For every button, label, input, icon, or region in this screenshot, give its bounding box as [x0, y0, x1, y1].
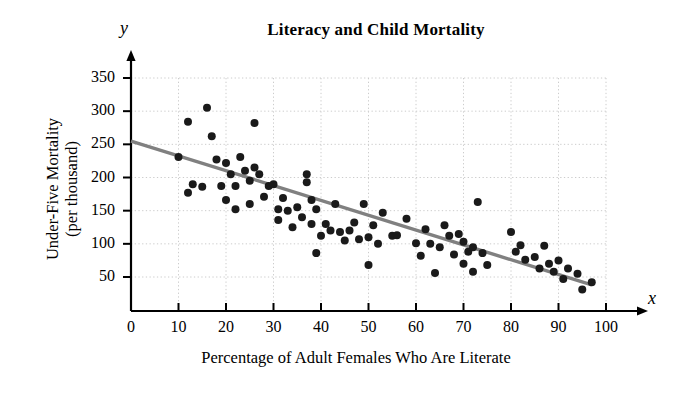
data-point: [474, 198, 482, 206]
data-point: [298, 213, 306, 221]
data-point: [222, 159, 230, 167]
data-point: [483, 261, 491, 269]
data-point: [393, 231, 401, 239]
data-point: [303, 178, 311, 186]
data-point: [379, 209, 387, 217]
data-point: [350, 219, 358, 227]
data-point: [198, 183, 206, 191]
axis-ticks: [123, 78, 606, 311]
data-point: [545, 260, 553, 268]
data-point: [293, 203, 301, 211]
data-point: [217, 182, 225, 190]
data-point: [374, 240, 382, 248]
data-point: [289, 223, 297, 231]
data-point: [213, 156, 221, 164]
data-point: [431, 269, 439, 277]
data-point: [260, 193, 268, 201]
chart-figure: Literacy and Child Mortality y x Under-F…: [0, 0, 696, 393]
data-point: [517, 241, 525, 249]
data-point: [184, 118, 192, 126]
regression-line: [131, 141, 592, 285]
data-point: [365, 261, 373, 269]
data-point: [555, 256, 563, 264]
data-point: [232, 182, 240, 190]
data-point: [521, 256, 529, 264]
data-point: [479, 249, 487, 257]
data-point: [312, 205, 320, 213]
data-point: [417, 252, 425, 260]
data-point: [341, 237, 349, 245]
data-point: [469, 268, 477, 276]
data-point: [322, 220, 330, 228]
data-point: [227, 170, 235, 178]
data-point: [241, 167, 249, 175]
scatter-plot-canvas: [0, 0, 696, 393]
data-point: [445, 232, 453, 240]
data-point: [189, 180, 197, 188]
data-point: [412, 239, 420, 247]
data-point: [274, 205, 282, 213]
data-point: [236, 153, 244, 161]
data-point: [507, 228, 515, 236]
data-point: [574, 270, 582, 278]
data-point: [455, 230, 463, 238]
data-point: [460, 260, 468, 268]
data-point: [308, 196, 316, 204]
data-point: [578, 286, 586, 294]
y-axis-arrowhead: [126, 50, 135, 61]
data-point: [436, 243, 444, 251]
data-point: [369, 221, 377, 229]
data-point: [365, 233, 373, 241]
data-point: [246, 200, 254, 208]
data-point: [336, 228, 344, 236]
data-point: [255, 170, 263, 178]
data-point: [208, 132, 216, 140]
data-point: [279, 194, 287, 202]
data-point: [422, 225, 430, 233]
axes: [126, 50, 648, 316]
data-point: [355, 235, 363, 243]
data-point: [312, 249, 320, 257]
data-point: [303, 170, 311, 178]
data-point: [317, 232, 325, 240]
data-point: [531, 253, 539, 261]
data-point: [360, 200, 368, 208]
data-point: [184, 189, 192, 197]
data-point: [274, 216, 282, 224]
data-point: [536, 264, 544, 272]
trend-line: [131, 141, 592, 285]
data-point: [308, 220, 316, 228]
data-point: [327, 227, 335, 235]
data-point: [284, 207, 292, 215]
data-point: [512, 248, 520, 256]
data-point: [426, 240, 434, 248]
data-point: [346, 227, 354, 235]
grid-lines: [131, 78, 606, 311]
data-point: [469, 243, 477, 251]
data-point: [175, 153, 183, 161]
data-point: [403, 215, 411, 223]
data-point: [232, 205, 240, 213]
data-point: [550, 268, 558, 276]
data-point: [331, 200, 339, 208]
data-point: [246, 177, 254, 185]
data-point: [450, 250, 458, 258]
data-point: [540, 242, 548, 250]
data-point: [441, 221, 449, 229]
data-point: [270, 180, 278, 188]
x-axis-arrowhead: [637, 306, 648, 315]
data-point: [588, 278, 596, 286]
data-point: [460, 238, 468, 246]
data-point: [251, 119, 259, 127]
data-point: [222, 196, 230, 204]
data-point: [564, 264, 572, 272]
data-point: [559, 275, 567, 283]
data-point: [203, 104, 211, 112]
data-point: [251, 164, 259, 172]
